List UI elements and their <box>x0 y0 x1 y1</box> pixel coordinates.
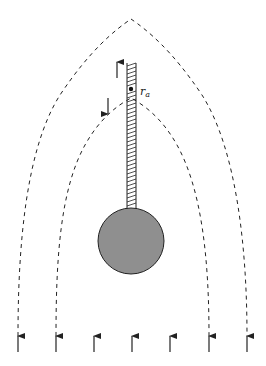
label-r: ra <box>140 85 150 99</box>
outer-streamline <box>18 19 247 336</box>
flow-arrows <box>18 336 247 352</box>
point-ra <box>129 87 133 91</box>
diagram: ra <box>0 0 266 366</box>
tether <box>127 63 136 210</box>
sphere <box>98 208 164 274</box>
